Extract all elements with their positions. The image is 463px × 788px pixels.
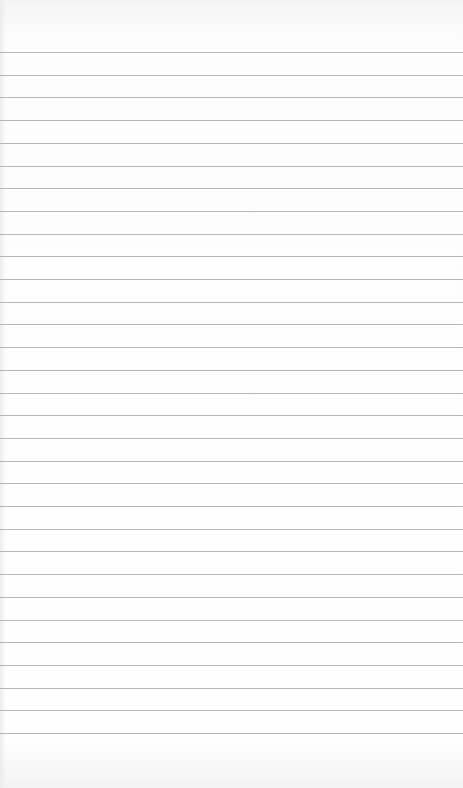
- paper-edge-shadow: [0, 0, 6, 788]
- ruled-line: [0, 324, 463, 325]
- ruled-line: [0, 642, 463, 643]
- ruled-line: [0, 188, 463, 189]
- ruled-line: [0, 710, 463, 711]
- ruled-line: [0, 393, 463, 394]
- ruled-line: [0, 370, 463, 371]
- ruled-line: [0, 688, 463, 689]
- ruled-line: [0, 483, 463, 484]
- ruled-line: [0, 97, 463, 98]
- ruled-line: [0, 574, 463, 575]
- ruled-line: [0, 211, 463, 212]
- ruled-line: [0, 461, 463, 462]
- ruled-line: [0, 166, 463, 167]
- ruled-line: [0, 551, 463, 552]
- ruled-line: [0, 143, 463, 144]
- ruled-line: [0, 120, 463, 121]
- ruled-line: [0, 302, 463, 303]
- ruled-line: [0, 597, 463, 598]
- ruled-line: [0, 506, 463, 507]
- ruled-line: [0, 415, 463, 416]
- ruled-line: [0, 529, 463, 530]
- ruled-line: [0, 665, 463, 666]
- ruled-line: [0, 733, 463, 734]
- ruled-line: [0, 279, 463, 280]
- ruled-line: [0, 52, 463, 53]
- ruled-line: [0, 438, 463, 439]
- lined-paper: [0, 0, 463, 788]
- ruled-line: [0, 620, 463, 621]
- ruled-line: [0, 256, 463, 257]
- ruled-line: [0, 234, 463, 235]
- ruled-line: [0, 347, 463, 348]
- ruled-line: [0, 75, 463, 76]
